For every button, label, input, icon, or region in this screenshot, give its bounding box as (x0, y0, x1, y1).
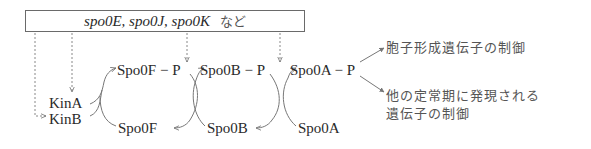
node-spo0b: Spo0B (207, 120, 248, 136)
output-stationary-genes-line1: 他の定常期に発現される (386, 88, 540, 104)
output-stationary-genes-line2: 遺伝子の制御 (386, 106, 470, 122)
node-kina: KinA (49, 95, 82, 111)
node-spo0f: Spo0F (118, 120, 157, 136)
node-spo0a: Spo0A (298, 120, 340, 136)
node-spo0a-p: Spo0A − P (290, 62, 355, 78)
output-sporulation-genes: 胞子形成遺伝子の制御 (386, 40, 526, 56)
etc-label: など (220, 14, 246, 29)
regulator-genes: spo0E, spo0J, spo0K (84, 13, 210, 29)
regulator-genes-box: spo0E, spo0J, spo0Kなど (25, 10, 305, 32)
node-spo0f-p: Spo0F − P (117, 62, 181, 78)
node-kinb: KinB (49, 111, 82, 127)
node-spo0b-p: Spo0B − P (200, 62, 265, 78)
